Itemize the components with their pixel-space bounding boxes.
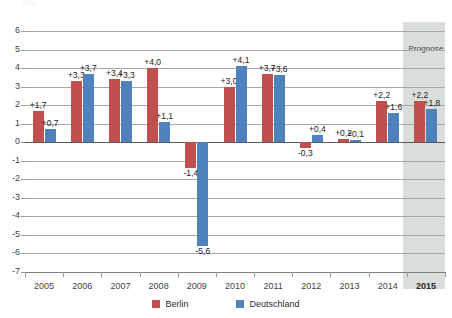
x-axis-label: 2013 <box>331 281 369 291</box>
y-axis-tick-mark <box>21 50 25 51</box>
x-axis-label: 2010 <box>216 281 254 291</box>
x-axis-line <box>25 272 445 273</box>
gridline <box>25 161 445 162</box>
x-axis-label: 2007 <box>101 281 139 291</box>
gridline <box>25 31 445 32</box>
x-axis-label: 2014 <box>369 281 407 291</box>
bar-value-label: +2,2 <box>369 91 395 100</box>
gridline <box>25 216 445 217</box>
x-axis-tick <box>330 272 331 277</box>
y-axis-tick-mark <box>21 142 25 143</box>
x-axis-tick <box>445 272 446 277</box>
bar-value-label: -0,3 <box>292 149 318 158</box>
y-axis-tick-mark <box>21 235 25 236</box>
y-axis-tick-mark <box>21 179 25 180</box>
bar-deutschland-2015[interactable] <box>426 109 437 142</box>
x-axis-tick <box>254 272 255 277</box>
x-axis-tick <box>178 272 179 277</box>
bar-deutschland-2009[interactable] <box>197 142 208 246</box>
x-axis-label: 2006 <box>63 281 101 291</box>
y-axis-tick-mark <box>21 87 25 88</box>
y-axis-tick-label: -2 <box>0 174 20 183</box>
bar-value-label: +1,1 <box>152 112 178 121</box>
bar-berlin-2010[interactable] <box>224 87 235 143</box>
y-axis-tick-label: 4 <box>0 63 20 72</box>
x-axis-label: 2012 <box>292 281 330 291</box>
y-axis-tick-label: 2 <box>0 100 20 109</box>
bar-chart: Prognose 6543210-1-2-3-4-5-6-7 200520062… <box>0 0 452 318</box>
x-axis-tick <box>369 272 370 277</box>
bar-berlin-2009[interactable] <box>185 142 196 168</box>
bar-berlin-2008[interactable] <box>147 68 158 142</box>
x-axis-tick <box>292 272 293 277</box>
x-axis-tick <box>407 272 408 277</box>
bar-value-label: +4,0 <box>140 58 166 67</box>
x-axis-tick <box>101 272 102 277</box>
gridline <box>25 179 445 180</box>
bar-value-label: +3,3 <box>113 71 139 80</box>
y-axis-tick-mark <box>21 68 25 69</box>
legend-label: Berlin <box>165 299 188 309</box>
y-axis-tick-label: -5 <box>0 230 20 239</box>
y-axis-tick-mark <box>21 124 25 125</box>
bar-value-label: +4,1 <box>228 56 254 65</box>
forecast-band-label: Prognose <box>406 44 446 53</box>
x-axis-label: 2009 <box>178 281 216 291</box>
chart-legend: Berlin Deutschland <box>0 299 452 309</box>
legend-swatch-icon <box>152 300 160 308</box>
bar-deutschland-2006[interactable] <box>83 74 94 143</box>
y-axis-tick-label: -1 <box>0 156 20 165</box>
x-axis-label: 2015 <box>407 281 445 291</box>
x-axis-tick <box>63 272 64 277</box>
bar-value-label: +1,8 <box>419 99 445 108</box>
bar-deutschland-2014[interactable] <box>388 113 399 143</box>
x-axis-label: 2011 <box>254 281 292 291</box>
y-axis-tick-label: 5 <box>0 45 20 54</box>
gridline <box>25 50 445 51</box>
y-axis-tick-mark <box>21 198 25 199</box>
x-axis-label: 2005 <box>25 281 63 291</box>
x-axis-label: 2008 <box>140 281 178 291</box>
gridline <box>25 198 445 199</box>
bar-deutschland-2011[interactable] <box>274 75 285 142</box>
legend-swatch-icon <box>236 300 244 308</box>
y-axis-tick-label: -7 <box>0 267 20 276</box>
bar-deutschland-2010[interactable] <box>236 66 247 142</box>
bar-deutschland-2012[interactable] <box>312 135 323 142</box>
forecast-shaded-band <box>403 22 445 289</box>
y-axis-tick-mark <box>21 31 25 32</box>
bar-value-label: +0,7 <box>37 119 63 128</box>
page-artifact <box>22 1 36 6</box>
bar-deutschland-2013[interactable] <box>350 140 361 142</box>
y-axis-tick-label: 0 <box>0 137 20 146</box>
y-axis-tick-mark <box>21 161 25 162</box>
y-axis-tick-label: -6 <box>0 248 20 257</box>
legend-item-berlin[interactable]: Berlin <box>152 299 188 309</box>
bar-value-label: -5,6 <box>190 247 216 256</box>
gridline <box>25 253 445 254</box>
bar-deutschland-2007[interactable] <box>121 81 132 142</box>
bar-value-label: +3,7 <box>75 64 101 73</box>
legend-item-deutschland[interactable]: Deutschland <box>236 299 299 309</box>
bar-value-label: +1,6 <box>381 103 407 112</box>
y-axis-tick-mark <box>21 216 25 217</box>
y-axis-tick-label: 6 <box>0 26 20 35</box>
y-axis-tick-mark <box>21 253 25 254</box>
bar-value-label: +0,1 <box>343 130 369 139</box>
x-axis-tick <box>216 272 217 277</box>
bar-berlin-2011[interactable] <box>262 74 273 143</box>
y-axis-tick-label: 1 <box>0 119 20 128</box>
bar-berlin-2006[interactable] <box>71 81 82 142</box>
bar-berlin-2012[interactable] <box>300 142 311 148</box>
y-axis-tick-label: -3 <box>0 193 20 202</box>
bar-berlin-2007[interactable] <box>109 79 120 142</box>
x-axis-tick <box>25 272 26 277</box>
gridline <box>25 235 445 236</box>
bar-deutschland-2005[interactable] <box>45 129 56 142</box>
bar-value-label: +0,4 <box>304 125 330 134</box>
x-axis-tick <box>140 272 141 277</box>
y-axis-tick-label: 3 <box>0 82 20 91</box>
bar-deutschland-2008[interactable] <box>159 122 170 142</box>
bar-value-label: +3,6 <box>266 65 292 74</box>
y-axis-tick-label: -4 <box>0 211 20 220</box>
